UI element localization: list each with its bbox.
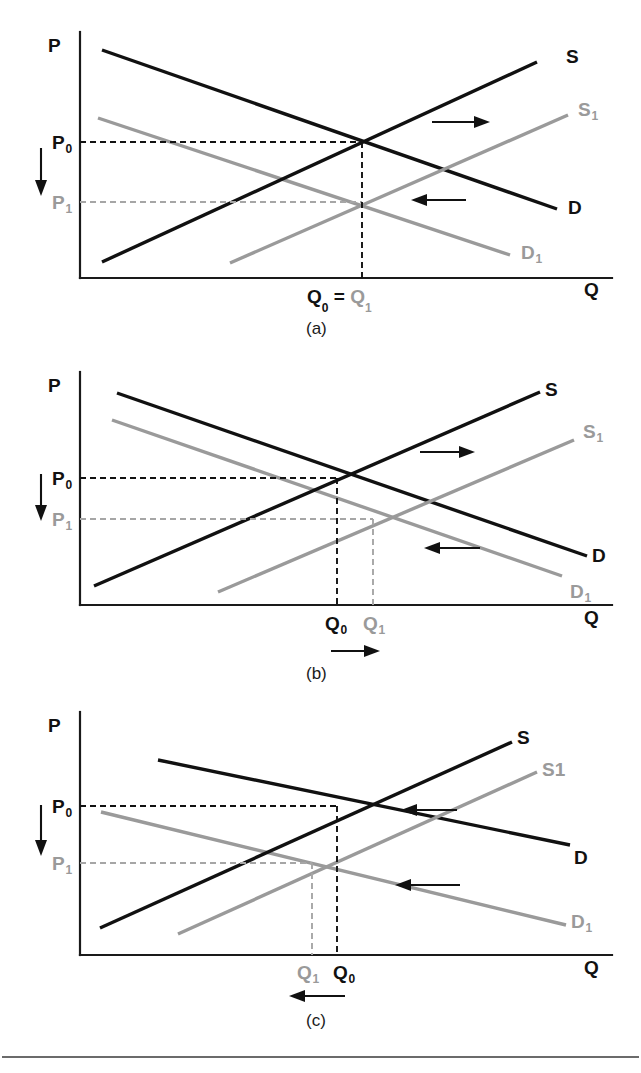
panel-b-x-axis-label: Q: [584, 608, 599, 627]
panel-c-supply-label: S: [517, 728, 530, 747]
panel-c-demand-left-arrow: [395, 879, 460, 891]
panel-b-supply-shift-curve: [218, 440, 574, 592]
panel-b-quantity-right-arrow: [331, 645, 380, 657]
panel-b-price-down-arrow: [35, 474, 47, 521]
panel-b-supply-shift-label: S1: [583, 422, 603, 441]
panel-b-demand-shift-label: D1: [570, 582, 591, 601]
panel-c-p1-label: P1: [52, 854, 72, 873]
panel-c-supply-shift-curve: [178, 772, 537, 934]
panel-c-caption: (c): [306, 1012, 326, 1029]
panel-c-p0-label: P0: [52, 797, 72, 816]
panel-c-demand-label: D: [574, 848, 588, 867]
panel-a-p0-label: P0: [52, 133, 72, 152]
panel-b-graphic: [35, 372, 612, 657]
panel-c-supply-shift-label: S1: [542, 760, 566, 779]
panel-a-supply-right-arrow: [432, 116, 490, 128]
panel-c-demand-curve: [158, 760, 570, 845]
panel-b-p0-label: P0: [52, 469, 72, 488]
panel-b-y-axis-label: P: [48, 376, 61, 395]
panel-b-supply-curve: [94, 392, 540, 586]
panel-c-price-down-arrow: [35, 805, 47, 856]
panel-a-demand-curve: [102, 50, 557, 209]
panel-a-price-down-arrow: [35, 148, 47, 196]
panel-a-demand-left-arrow: [411, 194, 466, 206]
panel-c-x-axis-label: Q: [584, 958, 599, 977]
panel-a-demand-label: D: [568, 198, 582, 217]
panel-b-p1-label: P1: [52, 510, 72, 529]
panel-a-supply-curve: [102, 62, 537, 262]
figure-vector-layer: [0, 0, 641, 1073]
panel-a-caption: (a): [306, 320, 327, 337]
panel-b-q1-label: Q1: [363, 614, 385, 633]
panel-b-supply-right-arrow: [420, 446, 475, 458]
panel-c-quantity-left-arrow: [289, 990, 345, 1002]
panel-a-x-axis-label: Q: [584, 280, 599, 299]
panel-a-demand-shift-label: D1: [521, 243, 542, 262]
panel-a-supply-shift-curve: [230, 115, 568, 263]
panel-c-graphic: [35, 712, 612, 1002]
panel-a-y-axis-label: P: [48, 36, 61, 55]
panel-b-caption: (b): [306, 665, 327, 682]
panel-a-supply-shift-label: S1: [578, 100, 598, 119]
panel-a-quantity-equality-label: Q0 = Q1: [307, 287, 372, 310]
panel-c-q1-label: Q1: [297, 963, 319, 982]
panel-b-demand-label: D: [592, 546, 606, 565]
supply-demand-figure: P Q P0 P1 Q0 = Q1 S S1 D D1 (a) P Q P0 P…: [0, 0, 641, 1073]
panel-a-supply-label: S: [566, 47, 579, 66]
panel-b-supply-label: S: [545, 380, 558, 399]
panel-c-y-axis-label: P: [48, 716, 61, 735]
panel-b-q0-label: Q0: [325, 614, 347, 633]
panel-c-supply-curve: [100, 742, 512, 928]
panel-c-demand-shift-label: D1: [571, 912, 592, 931]
panel-c-q0-label: Q0: [333, 963, 355, 982]
panel-a-p1-label: P1: [52, 193, 72, 212]
